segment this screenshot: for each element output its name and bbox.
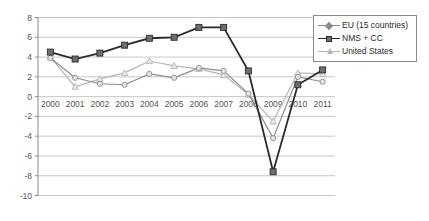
legend-item-united-states: United States <box>318 45 412 58</box>
x-tick-label: 2003 <box>115 99 134 109</box>
y-tick-label: 0 <box>27 92 32 102</box>
data-point <box>73 75 78 80</box>
data-point <box>48 55 53 60</box>
y-tick-label: -6 <box>24 151 32 161</box>
x-tick-label: 2001 <box>66 99 85 109</box>
data-point <box>320 67 326 73</box>
data-point <box>246 91 251 96</box>
legend: EU (15 countries) NMS + CC United States <box>313 15 417 62</box>
series-line <box>50 57 322 121</box>
legend-marker-eu <box>318 20 340 31</box>
legend-marker-united-states <box>318 46 340 57</box>
x-tick-label: 2011 <box>313 99 332 109</box>
y-tick-label: 6 <box>27 32 32 42</box>
y-tick-label: 4 <box>27 52 32 62</box>
data-point <box>47 49 53 55</box>
y-tick-label: 2 <box>27 72 32 82</box>
data-series-layer <box>47 24 326 174</box>
data-point <box>122 42 128 48</box>
data-point <box>97 50 103 56</box>
data-point <box>270 169 276 175</box>
y-axis-tick-labels: 86420-2-4-6-8-10 <box>20 13 33 201</box>
data-point <box>72 56 78 62</box>
x-tick-label: 2006 <box>189 99 208 109</box>
legend-item-nms-cc: NMS + CC <box>318 32 412 45</box>
series-united-states <box>47 54 326 124</box>
data-point <box>295 82 301 88</box>
data-point <box>221 24 227 30</box>
y-tick-label: -2 <box>24 111 32 121</box>
line-chart: 86420-2-4-6-8-10 20002001200220032004200… <box>0 0 429 221</box>
data-point <box>271 136 276 141</box>
y-tick-label: 8 <box>27 13 32 23</box>
data-point <box>295 74 300 79</box>
data-point <box>147 71 152 76</box>
legend-marker-nms-cc <box>318 33 340 44</box>
x-tick-label: 2007 <box>214 99 233 109</box>
x-tick-label: 2000 <box>41 99 60 109</box>
legend-label-nms-cc: NMS + CC <box>342 33 383 44</box>
data-point <box>320 79 325 84</box>
x-tick-label: 2004 <box>140 99 159 109</box>
data-point <box>146 35 152 41</box>
data-point <box>196 65 201 70</box>
x-tick-label: 2002 <box>90 99 109 109</box>
data-point <box>221 68 226 73</box>
legend-item-eu: EU (15 countries) <box>318 19 412 32</box>
data-point <box>121 70 127 76</box>
y-tick-label: -4 <box>24 131 32 141</box>
data-point <box>122 82 127 87</box>
y-tick-label: -8 <box>24 171 32 181</box>
legend-label-united-states: United States <box>342 46 393 57</box>
y-axis-line <box>35 18 38 196</box>
data-point <box>196 24 202 30</box>
series-eu-15-countries <box>48 55 325 140</box>
legend-label-eu: EU (15 countries) <box>342 20 408 31</box>
data-point <box>97 81 102 86</box>
y-tick-label: -10 <box>20 191 33 201</box>
x-tick-label: 2005 <box>165 99 184 109</box>
data-point <box>146 58 152 64</box>
data-point <box>171 34 177 40</box>
data-point <box>245 68 251 74</box>
data-point <box>172 75 177 80</box>
